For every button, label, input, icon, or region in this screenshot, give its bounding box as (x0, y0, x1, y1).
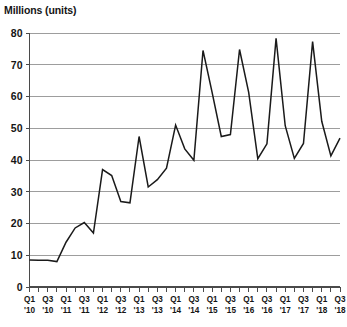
x-tick-label-year: '13 (152, 306, 164, 315)
x-tick-label-year: '12 (115, 306, 127, 315)
x-tick-label-year: '13 (134, 306, 146, 315)
x-axis-tick-labels: Q1'10Q3'10Q1'11Q3'11Q1'12Q3'12Q1'13Q3'13… (24, 295, 346, 315)
x-tick-label-quarter: Q3 (225, 295, 236, 304)
x-tick-label-year: '12 (97, 306, 109, 315)
y-tick-label: 20 (11, 217, 23, 229)
x-tick-label-year: '14 (188, 306, 200, 315)
x-tick-label-year: '15 (207, 306, 219, 315)
y-axis-tick-labels: 01020304050607080 (11, 27, 23, 293)
x-tick-label-quarter: Q1 (316, 295, 327, 304)
x-tick-label-year: '16 (261, 306, 273, 315)
x-tick-label-quarter: Q3 (335, 295, 346, 304)
x-tick-label-year: '10 (24, 306, 36, 315)
y-tick-label: 10 (11, 249, 23, 261)
x-tick-label-quarter: Q1 (61, 295, 72, 304)
x-tick-label-year: '11 (79, 306, 90, 315)
data-series-line (30, 38, 341, 261)
x-tick-label-quarter: Q3 (152, 295, 163, 304)
y-tick-label: 70 (11, 59, 23, 71)
x-tick-label-quarter: Q3 (261, 295, 272, 304)
x-axis-tick-marks (30, 287, 341, 292)
y-tick-label: 50 (11, 122, 23, 134)
y-tick-label: 40 (11, 154, 23, 166)
x-tick-label-quarter: Q3 (188, 295, 199, 304)
y-tick-label: 60 (11, 90, 23, 102)
gridlines (30, 33, 341, 255)
x-tick-label-year: '16 (243, 306, 255, 315)
x-tick-label-year: '15 (225, 306, 237, 315)
x-tick-label-quarter: Q3 (42, 295, 53, 304)
chart-container: Millions (units) 01020304050607080 Q1'10… (0, 0, 347, 327)
x-tick-label-year: '17 (280, 306, 292, 315)
x-tick-label-quarter: Q3 (79, 295, 90, 304)
x-tick-label-quarter: Q1 (207, 295, 218, 304)
x-tick-label-quarter: Q1 (243, 295, 254, 304)
x-tick-label-quarter: Q3 (115, 295, 126, 304)
x-tick-label-quarter: Q3 (298, 295, 309, 304)
y-tick-label: 30 (11, 186, 23, 198)
x-tick-label-year: '18 (334, 306, 346, 315)
x-tick-label-quarter: Q1 (280, 295, 291, 304)
x-tick-label-year: '18 (316, 306, 328, 315)
x-tick-label-year: '17 (298, 306, 310, 315)
x-tick-label-quarter: Q1 (170, 295, 181, 304)
line-chart-plot: 01020304050607080 Q1'10Q3'10Q1'11Q3'11Q1… (0, 0, 347, 327)
x-tick-label-quarter: Q1 (97, 295, 108, 304)
x-tick-label-quarter: Q1 (24, 295, 35, 304)
y-axis-tick-marks (26, 33, 30, 287)
x-tick-label-quarter: Q1 (134, 295, 145, 304)
x-tick-label-year: '11 (61, 306, 72, 315)
x-tick-label-year: '14 (170, 306, 182, 315)
y-tick-label: 80 (11, 27, 23, 39)
y-tick-label: 0 (17, 281, 23, 293)
x-tick-label-year: '10 (42, 306, 54, 315)
